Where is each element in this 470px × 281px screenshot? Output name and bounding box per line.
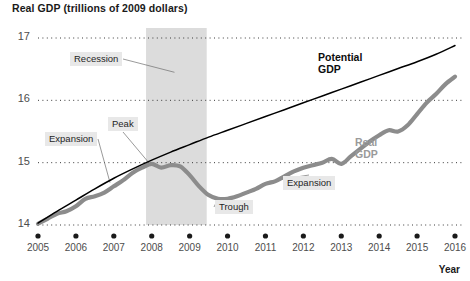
x-axis-dot bbox=[263, 233, 268, 238]
leader-line-peak bbox=[123, 132, 150, 164]
series-label-real-gdp: Real GDP bbox=[355, 137, 378, 161]
x-axis-dot bbox=[301, 233, 306, 238]
x-axis-tick-label: 2010 bbox=[208, 242, 248, 253]
x-axis-tick-label: 2012 bbox=[283, 242, 323, 253]
leader-line-expansion-left bbox=[98, 139, 110, 183]
annotation-trough: Trough bbox=[215, 200, 253, 214]
series-label-potential-gdp-line1: Potential bbox=[318, 52, 362, 64]
x-axis-tick-label: 2015 bbox=[397, 242, 437, 253]
x-axis-dot bbox=[339, 233, 344, 238]
series-label-potential-gdp: Potential GDP bbox=[318, 52, 362, 76]
x-axis-tick-label: 2005 bbox=[18, 242, 58, 253]
x-axis-dot bbox=[35, 233, 40, 238]
annotation-recession: Recession bbox=[70, 52, 122, 66]
series-label-real-gdp-line1: Real bbox=[355, 137, 378, 149]
x-axis-dots-group bbox=[35, 233, 457, 238]
x-axis-dot bbox=[73, 233, 78, 238]
x-axis-tick-label: 2009 bbox=[170, 242, 210, 253]
annotation-expansion-right: Expansion bbox=[283, 176, 335, 190]
x-axis-dot bbox=[377, 233, 382, 238]
x-axis-tick-label: 2013 bbox=[321, 242, 361, 253]
x-axis-tick-label: 2006 bbox=[56, 242, 96, 253]
x-axis-tick-label: 2008 bbox=[132, 242, 172, 253]
x-axis-tick-label: 2007 bbox=[94, 242, 134, 253]
x-axis-dot bbox=[111, 233, 116, 238]
annotation-expansion-left: Expansion bbox=[45, 132, 97, 146]
x-axis-dot bbox=[187, 233, 192, 238]
y-axis-tick-label: 17 bbox=[8, 30, 30, 42]
y-axis-tick-label: 16 bbox=[8, 92, 30, 104]
series-lines-group bbox=[38, 45, 455, 223]
y-axis-tick-label: 15 bbox=[8, 155, 30, 167]
x-axis-dot bbox=[452, 233, 457, 238]
recession-band-group bbox=[146, 28, 207, 225]
series-label-potential-gdp-line2: GDP bbox=[318, 64, 362, 76]
y-axis-tick-label: 14 bbox=[8, 217, 30, 229]
x-axis-tick-label: 2016 bbox=[435, 242, 470, 253]
gdp-chart: Real GDP (trillions of 2009 dollars) 141… bbox=[0, 0, 470, 281]
annotation-peak: Peak bbox=[108, 117, 138, 131]
x-axis-tick-label: 2011 bbox=[245, 242, 285, 253]
x-axis-dot bbox=[414, 233, 419, 238]
x-axis-dot bbox=[149, 233, 154, 238]
series-label-real-gdp-line2: GDP bbox=[355, 149, 378, 161]
x-axis-label: Year bbox=[439, 264, 460, 275]
x-axis-dot bbox=[225, 233, 230, 238]
recession-band bbox=[146, 28, 207, 225]
x-axis-tick-label: 2014 bbox=[359, 242, 399, 253]
